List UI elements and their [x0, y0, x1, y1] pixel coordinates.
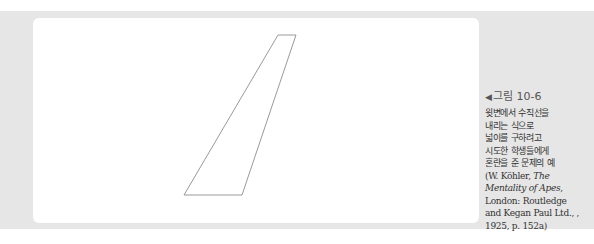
citation-title-2: Mentality of Apes: [485, 183, 560, 193]
citation-prefix: (W. Köhler,: [485, 171, 533, 181]
citation-publisher-2: and Kegan Paul Ltd., ,: [485, 207, 591, 220]
caption-line: 시도한 학생들에게: [485, 145, 591, 158]
citation-year: 1925, p. 152a): [485, 220, 591, 233]
caption-title: ◀그림 10-6: [485, 87, 591, 103]
citation-line: Mentality of Apes,: [485, 182, 591, 195]
left-arrow-icon: ◀: [485, 92, 492, 102]
figure-label: 그림 10-6: [493, 90, 541, 103]
caption-line: 내리는 식으로: [485, 120, 591, 133]
citation-line: (W. Köhler, The: [485, 170, 591, 183]
caption-line: 넓이를 구하려고: [485, 132, 591, 145]
citation-title-1: The: [533, 171, 549, 181]
figure-caption: ◀그림 10-6 윗변에서 수직선을 내리는 식으로 넓이를 구하려고 시도한 …: [485, 87, 591, 232]
citation-comma: ,: [560, 183, 563, 193]
parallelogram-shape: [184, 35, 296, 195]
citation-publisher: London: Routledge: [485, 195, 591, 208]
caption-line: 혼란을 준 문제의 예: [485, 157, 591, 170]
caption-line: 윗변에서 수직선을: [485, 107, 591, 120]
